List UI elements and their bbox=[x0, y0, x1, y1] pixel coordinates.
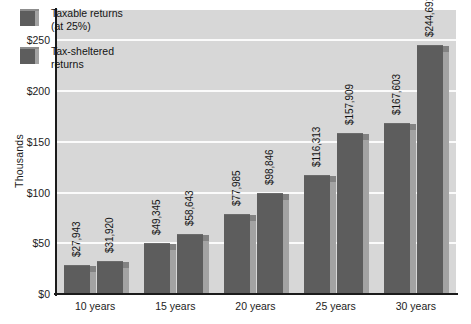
legend-item-tax-sheltered: Tax-sheltered returns bbox=[20, 45, 210, 75]
bar[interactable] bbox=[97, 262, 123, 294]
legend-label-taxable-line2: (at 25%) bbox=[51, 20, 123, 33]
bar-side-face bbox=[203, 241, 209, 294]
y-axis-tick-label: $150 bbox=[4, 136, 50, 148]
bar[interactable] bbox=[384, 124, 410, 294]
bar-value-label: $167,603 bbox=[391, 74, 402, 115]
bar-value-label: $27,943 bbox=[71, 221, 82, 256]
bar[interactable] bbox=[224, 215, 250, 294]
x-axis-tick-label: 15 years bbox=[135, 300, 215, 312]
legend-label-tax-sheltered-line1: Tax-sheltered bbox=[51, 45, 114, 58]
bar[interactable] bbox=[417, 46, 443, 294]
bar-top-face bbox=[250, 215, 256, 221]
bar-front-face bbox=[144, 243, 170, 294]
bar-front-face bbox=[97, 261, 123, 294]
bar-top-face bbox=[283, 194, 289, 200]
legend-label-tax-sheltered: Tax-sheltered returns bbox=[51, 45, 114, 70]
bar-top-face bbox=[410, 124, 416, 130]
bar-front-face bbox=[304, 175, 330, 294]
y-axis-tick-label: $100 bbox=[4, 187, 50, 199]
bar-top-face bbox=[90, 266, 96, 272]
bar-side-face bbox=[123, 268, 129, 294]
legend-label-tax-sheltered-line2: returns bbox=[51, 58, 114, 71]
legend-swatch-tax-sheltered-icon bbox=[20, 47, 39, 64]
bar-value-label: $49,345 bbox=[151, 200, 162, 235]
bar-side-face bbox=[250, 221, 256, 294]
bar[interactable] bbox=[304, 176, 330, 294]
bar-top-face bbox=[203, 235, 209, 241]
bar-front-face bbox=[257, 193, 283, 294]
bar-value-label: $244,691 bbox=[424, 0, 435, 37]
bar-top-face bbox=[170, 244, 176, 250]
bar-top-face bbox=[443, 46, 449, 52]
bar-value-label: $31,920 bbox=[104, 217, 115, 252]
bar-side-face bbox=[170, 250, 176, 294]
bar-top-face bbox=[363, 134, 369, 140]
bar-front-face bbox=[64, 265, 90, 294]
chart-legend: Taxable returns (at 25%) Tax-sheltered r… bbox=[20, 7, 210, 83]
bar[interactable] bbox=[64, 266, 90, 294]
bar-front-face bbox=[177, 234, 203, 294]
bar-front-face bbox=[384, 123, 410, 294]
legend-item-taxable: Taxable returns (at 25%) bbox=[20, 7, 210, 37]
legend-swatch-taxable-icon bbox=[20, 9, 39, 26]
x-axis-tick-label: 10 years bbox=[55, 300, 135, 312]
legend-label-taxable: Taxable returns (at 25%) bbox=[51, 7, 123, 32]
bar-value-label: $77,985 bbox=[231, 170, 242, 205]
bar-side-face bbox=[443, 52, 449, 294]
x-axis-line bbox=[54, 293, 458, 295]
bar[interactable] bbox=[144, 244, 170, 294]
bar-value-label: $116,313 bbox=[311, 127, 322, 167]
bar-top-face bbox=[123, 262, 129, 268]
x-axis-tick-label: 20 years bbox=[215, 300, 295, 312]
bar-top-face bbox=[330, 176, 336, 182]
bar[interactable] bbox=[257, 194, 283, 294]
bar-value-label: $98,846 bbox=[264, 149, 275, 184]
y-axis-tick-label: $0 bbox=[4, 288, 50, 300]
bar-front-face bbox=[417, 45, 443, 294]
bar-side-face bbox=[330, 182, 336, 294]
bar-front-face bbox=[224, 214, 250, 294]
bar-side-face bbox=[90, 272, 96, 294]
x-axis-tick-label: 25 years bbox=[296, 300, 376, 312]
bar[interactable] bbox=[337, 134, 363, 294]
bar-chart: Thousands $0$50$100$150$200$250 $27,943$… bbox=[0, 0, 471, 324]
y-axis-tick-label: $200 bbox=[4, 85, 50, 97]
bar-side-face bbox=[410, 130, 416, 294]
bar[interactable] bbox=[177, 235, 203, 294]
x-axis-tick-label: 30 years bbox=[376, 300, 456, 312]
bar-side-face bbox=[283, 200, 289, 294]
bar-side-face bbox=[363, 140, 369, 294]
bar-value-label: $157,909 bbox=[344, 84, 355, 125]
bar-value-label: $58,643 bbox=[184, 190, 195, 225]
bar-front-face bbox=[337, 133, 363, 294]
legend-label-taxable-line1: Taxable returns bbox=[51, 7, 123, 20]
y-axis-tick-label: $50 bbox=[4, 237, 50, 249]
